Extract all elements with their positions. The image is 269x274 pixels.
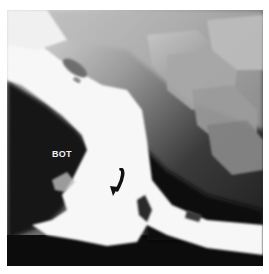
curved-arrow-icon [105, 168, 129, 200]
xray-image: BOT [7, 10, 263, 266]
bot-label: BOT [52, 149, 72, 159]
xray-illustration [7, 10, 263, 266]
